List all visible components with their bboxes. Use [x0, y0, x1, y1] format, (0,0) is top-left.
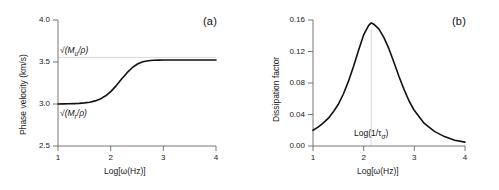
- y-tick-label-4: 0.16: [275, 15, 305, 24]
- x-tick-label-3: 4: [206, 153, 226, 162]
- x-tick-label-0: 1: [48, 153, 68, 162]
- annotation-head: Log(1/τ: [354, 128, 381, 138]
- y-tick-label-3: 4.0: [24, 15, 50, 24]
- x-tick-label-1: 2: [101, 153, 121, 162]
- x-tick-label-3: 4: [455, 153, 475, 162]
- panel-a: (a) 2.5 3.0 3: [0, 0, 250, 190]
- y-axis-ticks: [53, 20, 58, 146]
- y-axis-title: Dissipation factor: [271, 57, 281, 122]
- annotation-lower-head: (M: [65, 108, 75, 118]
- x-tick-label-2: 3: [153, 153, 173, 162]
- annotation-relaxed-modulus: √(Mr/ρ): [60, 108, 87, 120]
- x-axis-ticks: [313, 146, 465, 151]
- y-tick-label-3: 0.12: [275, 47, 305, 56]
- figure-container: (a) 2.5 3.0 3: [0, 0, 499, 190]
- annotation-relaxation-frequency: Log(1/τσ): [354, 128, 388, 140]
- y-axis-title: Phase velocity (km/s): [18, 54, 28, 135]
- x-tick-label-2: 3: [404, 153, 424, 162]
- y-axis-ticks: [308, 20, 313, 146]
- annotation-upper-head: (M: [65, 45, 75, 55]
- x-tick-label-0: 1: [303, 153, 323, 162]
- annotation-lower-tail: /ρ): [77, 108, 87, 118]
- dissipation-factor-curve: [313, 23, 465, 142]
- x-axis-title: Log[ω(Hz)]: [104, 166, 146, 176]
- annotation-unrelaxed-modulus: √(Mu/ρ): [60, 45, 88, 57]
- x-tick-label-1: 2: [354, 153, 374, 162]
- y-tick-label-0: 2.5: [24, 141, 50, 150]
- panel-b: (b) 0.00: [249, 0, 499, 190]
- y-tick-label-0: 0.00: [275, 141, 305, 150]
- x-axis-ticks: [58, 146, 216, 151]
- annotation-tail: ): [385, 128, 388, 138]
- annotation-upper-tail: /ρ): [78, 45, 88, 55]
- x-axis-title: Log[ω(Hz)]: [357, 166, 399, 176]
- phase-velocity-curve: [58, 60, 216, 104]
